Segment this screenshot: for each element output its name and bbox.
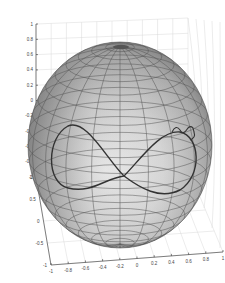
y-tick-label: 0.5: [29, 197, 36, 202]
x-tick-label: -0.8: [64, 268, 72, 273]
z-tick-label: 0.8: [27, 37, 34, 42]
y-tick-label: -1: [43, 263, 47, 268]
x-tick-label: -0.6: [82, 266, 90, 271]
x-tick-label: -0.2: [116, 264, 124, 269]
z-tick-label: 1: [30, 22, 33, 27]
x-tick-label: 0.2: [151, 261, 158, 266]
sphere-3d-plot: 10.80.60.40.20-0.2-0.4-0.6-0.8-1 10.50-0…: [0, 0, 225, 283]
x-tick-label: 0.6: [185, 259, 192, 264]
x-tick-label: 0.4: [168, 260, 175, 265]
z-tick-label: 0: [30, 98, 33, 103]
y-tick-label: -0.5: [35, 241, 43, 246]
x-tick-label: -1: [49, 269, 53, 274]
x-tick-label: 0: [136, 263, 139, 268]
x-tick-label: -0.4: [99, 265, 107, 270]
sphere-surface: [28, 42, 212, 248]
north-pole: [113, 45, 129, 49]
z-tick-label: 0.4: [27, 67, 34, 72]
z-tick-label: 0.6: [27, 52, 34, 57]
y-tick-label: 0: [37, 219, 40, 224]
x-tick-label: 0.8: [203, 257, 210, 262]
x-tick-label: 1: [222, 256, 225, 261]
z-tick-label: 0.2: [27, 83, 34, 88]
